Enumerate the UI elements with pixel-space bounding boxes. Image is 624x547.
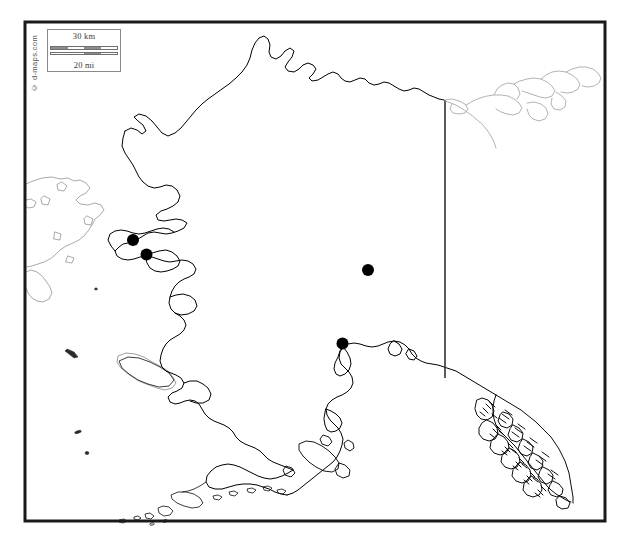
locality-point-3[interactable] [362, 264, 374, 276]
nunivak-island [119, 357, 174, 387]
map-canvas [0, 0, 624, 547]
locality-points [127, 234, 374, 350]
locality-point-4[interactable] [337, 338, 349, 350]
aleutian-islands [119, 482, 286, 526]
scale-bar-graphic [50, 46, 118, 56]
scale-bar-km-graphic [50, 46, 118, 50]
locality-point-2[interactable] [141, 249, 153, 261]
canada-coastline [445, 67, 601, 148]
chukotka-coastline [26, 177, 104, 302]
attribution-label: © d-maps.com [28, 30, 42, 92]
scale-bar-mi-label: 20 mi [74, 60, 95, 70]
alaska-mainland-coastline [108, 36, 496, 495]
scale-bar-mi-graphic [50, 52, 118, 56]
scale-bar-km-label: 30 km [73, 31, 96, 41]
locality-point-1[interactable] [127, 234, 139, 246]
kodiak-island-group [283, 435, 354, 478]
southeast-panhandle [475, 395, 573, 509]
map-container: © d-maps.com 30 km 20 mi [0, 0, 624, 547]
scale-bar: 30 km 20 mi [47, 29, 121, 72]
bering-sea-islands [65, 288, 97, 455]
